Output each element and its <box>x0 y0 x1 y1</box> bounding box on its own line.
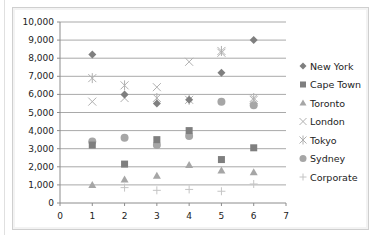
y-tick-label: 9,000 <box>28 35 54 45</box>
y-tick-label: 2,000 <box>28 162 54 172</box>
y-tick-label: 5,000 <box>28 108 54 118</box>
plus-marker-icon <box>185 185 193 193</box>
legend-label: Toronto <box>309 98 345 109</box>
legend-label: Cape Town <box>310 79 361 90</box>
x-tick-label: 3 <box>154 211 160 221</box>
square-marker-icon <box>218 156 225 163</box>
circle-marker-icon <box>300 155 307 162</box>
diamond-marker-icon <box>217 69 225 77</box>
plus-marker-icon <box>153 186 161 194</box>
circle-marker-icon <box>121 134 129 142</box>
triangle-marker-icon <box>300 100 307 106</box>
star-marker-icon <box>88 73 96 83</box>
square-marker-icon <box>250 144 257 151</box>
plus-marker-icon <box>217 187 225 195</box>
x-marker-icon <box>300 118 307 125</box>
x-tick-label: 1 <box>89 211 95 221</box>
triangle-marker-icon <box>185 161 193 168</box>
legend-label: Corporate <box>310 172 358 183</box>
legend-item: Sydney <box>300 153 346 164</box>
plus-marker-icon <box>300 174 307 181</box>
y-tick-label: 1,000 <box>28 180 54 190</box>
legend-item: London <box>300 116 345 127</box>
diamond-marker-icon <box>250 36 258 44</box>
legend: New YorkCape TownTorontoLondonTokyoSydne… <box>300 61 362 183</box>
y-axis-tick-labels: 01,0002,0003,0004,0005,0006,0007,0008,00… <box>23 17 55 208</box>
legend-item: Tokyo <box>300 135 337 146</box>
plus-marker-icon <box>250 180 258 188</box>
square-marker-icon <box>300 82 306 88</box>
triangle-marker-icon <box>217 166 225 173</box>
y-tick-label: 4,000 <box>28 126 54 136</box>
data-points <box>88 36 257 195</box>
star-marker-icon <box>300 136 307 145</box>
y-tick-label: 0 <box>48 198 54 208</box>
legend-label: Sydney <box>310 153 346 164</box>
star-marker-icon <box>217 46 225 56</box>
x-tick-label: 7 <box>283 211 289 221</box>
star-marker-icon <box>121 80 129 90</box>
triangle-marker-icon <box>250 168 258 175</box>
legend-item: Toronto <box>300 98 346 109</box>
x-marker-icon <box>185 58 193 66</box>
square-marker-icon <box>186 127 193 134</box>
axes <box>57 22 286 206</box>
legend-item: New York <box>300 61 355 72</box>
legend-item: Cape Town <box>300 79 361 90</box>
y-tick-label: 10,000 <box>23 17 55 27</box>
triangle-marker-icon <box>121 175 129 182</box>
x-marker-icon <box>153 83 161 91</box>
y-tick-label: 3,000 <box>28 144 54 154</box>
x-tick-label: 4 <box>186 211 192 221</box>
y-tick-label: 6,000 <box>28 89 54 99</box>
y-tick-label: 7,000 <box>28 71 54 81</box>
circle-marker-icon <box>217 98 225 106</box>
y-tick-label: 8,000 <box>28 53 54 63</box>
square-marker-icon <box>121 161 128 168</box>
triangle-marker-icon <box>153 172 161 179</box>
x-tick-label: 6 <box>251 211 257 221</box>
square-marker-icon <box>153 136 160 143</box>
x-axis-tick-labels: 01234567 <box>57 211 289 221</box>
star-marker-icon <box>250 93 258 103</box>
legend-label: New York <box>310 61 354 72</box>
x-tick-label: 2 <box>122 211 128 221</box>
x-tick-label: 0 <box>57 211 63 221</box>
legend-item: Corporate <box>300 172 358 183</box>
x-marker-icon <box>88 98 96 106</box>
diamond-marker-icon <box>300 63 307 70</box>
scatter-chart: 01,0002,0003,0004,0005,0006,0007,0008,00… <box>0 0 372 235</box>
x-tick-label: 5 <box>219 211 225 221</box>
diamond-marker-icon <box>88 51 96 59</box>
legend-label: Tokyo <box>309 135 337 146</box>
diamond-marker-icon <box>121 90 129 98</box>
legend-label: London <box>310 116 345 127</box>
square-marker-icon <box>89 142 96 149</box>
